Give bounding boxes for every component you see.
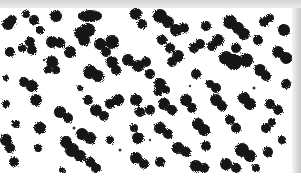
particle-field (0, 8, 292, 173)
top-border (0, 0, 301, 8)
right-border (292, 8, 301, 173)
micrograph-image (0, 0, 301, 191)
bottom-margin (0, 173, 301, 191)
